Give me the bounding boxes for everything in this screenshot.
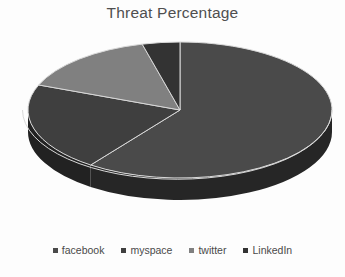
legend-item-facebook[interactable]: facebook [53, 245, 105, 256]
pie-chart-figure: Threat Percentage facebook myspace twitt… [0, 0, 345, 277]
legend-swatch-icon [243, 248, 248, 253]
chart-legend: facebook myspace twitter LinkedIn [0, 245, 345, 256]
legend-item-linkedin[interactable]: LinkedIn [243, 245, 292, 256]
plot-area [0, 26, 345, 238]
legend-item-myspace[interactable]: myspace [121, 245, 172, 256]
legend-label: LinkedIn [252, 245, 292, 256]
legend-swatch-icon [121, 248, 126, 253]
legend-swatch-icon [189, 248, 194, 253]
legend-item-twitter[interactable]: twitter [189, 245, 226, 256]
legend-label: facebook [62, 245, 105, 256]
legend-label: myspace [130, 245, 172, 256]
legend-swatch-icon [53, 248, 58, 253]
pie-top-faces [28, 42, 332, 178]
chart-title: Threat Percentage [0, 4, 345, 22]
legend-label: twitter [198, 245, 226, 256]
pie-svg [0, 26, 345, 238]
